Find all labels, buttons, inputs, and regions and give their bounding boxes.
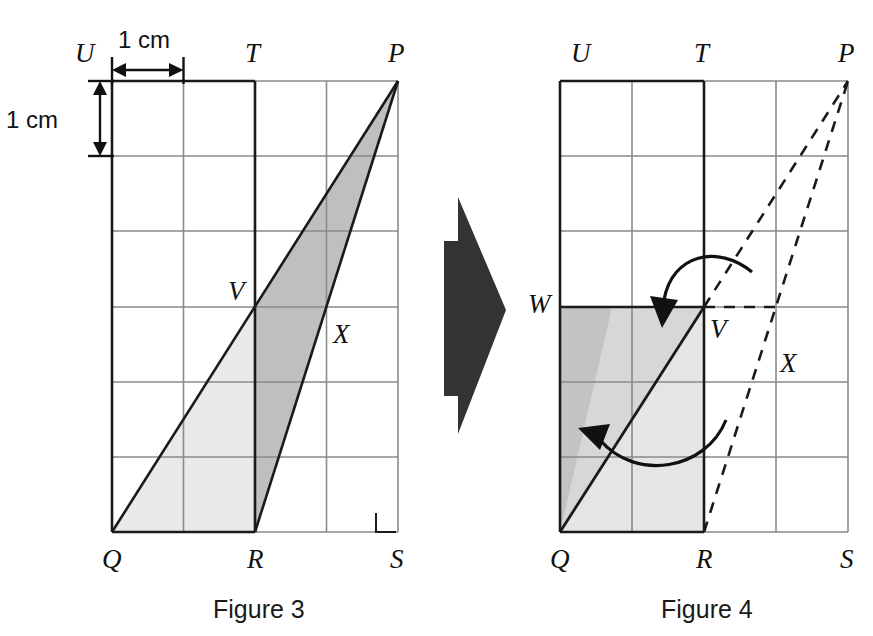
- vertex-label-r: R: [695, 544, 713, 574]
- vertex-label-r: R: [246, 544, 264, 574]
- vertex-label-p: P: [837, 38, 855, 68]
- vertex-label-s: S: [840, 544, 854, 574]
- vertex-label-x: X: [332, 319, 351, 349]
- diagram-stage: 1 cm 1 cm U T P V X Q R S Figure 3: [0, 0, 873, 636]
- vertex-label-t: T: [245, 38, 262, 68]
- vertex-label-q: Q: [102, 544, 122, 574]
- figure-4-caption: Figure 4: [661, 595, 753, 623]
- vertex-label-p: P: [387, 38, 405, 68]
- page-background: [0, 0, 873, 636]
- geometry-diagram: 1 cm 1 cm U T P V X Q R S Figure 3: [0, 0, 873, 636]
- vertex-label-s: S: [390, 544, 404, 574]
- vertex-label-u: U: [571, 38, 592, 68]
- vertex-label-t: T: [694, 38, 711, 68]
- vertex-label-q: Q: [550, 544, 570, 574]
- vertex-label-w: W: [528, 289, 553, 319]
- dimension-label-horizontal: 1 cm: [118, 26, 170, 53]
- dimension-label-vertical: 1 cm: [6, 106, 58, 133]
- figure-3-caption: Figure 3: [213, 595, 305, 623]
- vertex-label-u: U: [75, 38, 96, 68]
- vertex-label-x: X: [779, 348, 798, 378]
